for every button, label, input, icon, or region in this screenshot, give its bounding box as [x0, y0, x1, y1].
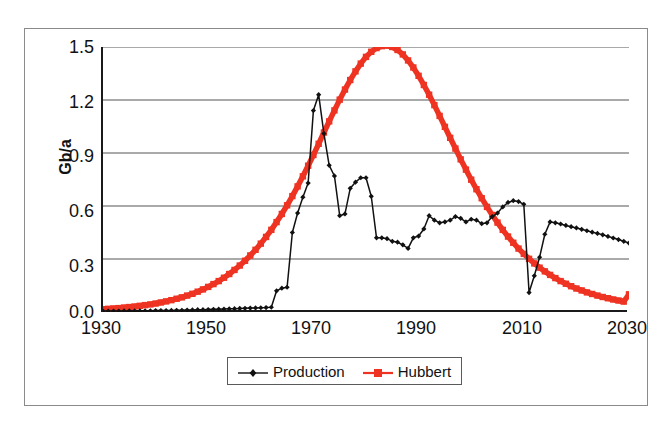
legend-entry-hubbert: Hubbert — [363, 363, 451, 380]
gridlines — [103, 47, 629, 259]
plot-area — [101, 47, 627, 312]
diamond-marker-icon — [238, 365, 268, 377]
x-tick-label-1990: 1990 — [381, 318, 451, 339]
chart-canvas — [103, 47, 629, 312]
x-tick-label-1950: 1950 — [171, 318, 241, 339]
legend-label-hubbert: Hubbert — [398, 363, 451, 380]
legend-entry-production: Production — [238, 363, 345, 380]
chart-legend: Production Hubbert — [227, 357, 462, 385]
square-marker-icon — [363, 365, 393, 377]
x-tick-label-1930: 1930 — [66, 318, 136, 339]
x-tick-label-2030: 2030 — [592, 318, 662, 339]
x-tick-label-1970: 1970 — [276, 318, 346, 339]
x-tick-label-2010: 2010 — [487, 318, 557, 339]
series-production — [103, 92, 629, 312]
legend-label-production: Production — [273, 363, 345, 380]
chart-figure: Gb/a 1.5 1.2 0.9 0.6 0.3 0.0 1930 1950 1… — [0, 0, 671, 424]
